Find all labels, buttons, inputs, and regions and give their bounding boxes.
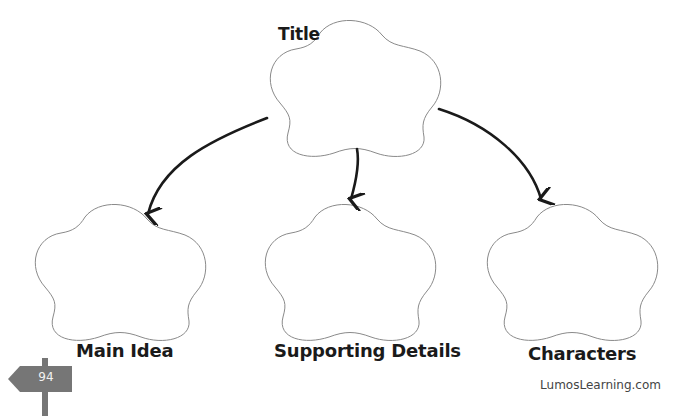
- arrow-title-to-characters: [439, 109, 541, 199]
- arrow-title-to-supporting-details: [351, 149, 358, 199]
- arrow-title-to-main-idea: [148, 118, 267, 214]
- supporting-details-label: Supporting Details: [274, 340, 461, 361]
- title-label: Title: [278, 24, 320, 44]
- footer-brand: LumosLearning.com: [540, 378, 661, 392]
- characters-flower[interactable]: [487, 204, 657, 340]
- page-number: 94: [26, 370, 66, 384]
- supporting-details-flower[interactable]: [265, 204, 435, 340]
- page-signpost-icon: [8, 358, 72, 416]
- characters-label: Characters: [528, 343, 636, 364]
- main-idea-label: Main Idea: [76, 340, 173, 361]
- main-idea-flower[interactable]: [35, 204, 205, 340]
